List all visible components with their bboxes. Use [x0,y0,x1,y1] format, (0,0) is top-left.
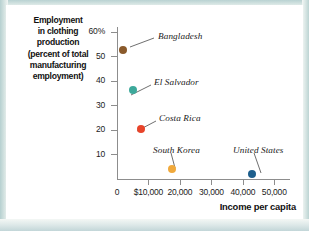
leader-line [254,153,261,173]
scatter-plot: Employmentin clothingproduction(percent … [6,5,303,219]
series-label: Bangladesh [158,31,202,41]
y-axis-title-line: production [12,37,104,48]
y-tick-mark [111,130,118,131]
screenshot-page: Employmentin clothingproduction(percent … [0,0,309,231]
y-tick-label: 40 [71,75,105,85]
x-tick-mark [243,179,244,185]
page-edge-bottom [0,219,309,231]
y-tick-label: 20 [71,124,105,134]
data-point[interactable] [168,165,176,173]
data-point[interactable] [129,86,137,94]
data-point[interactable] [119,46,127,54]
y-tick-label: 30 [71,100,105,110]
y-axis-title-line: Employment [12,15,104,26]
x-tick-label: 50,000 [244,187,304,197]
x-axis-line [117,179,290,180]
y-axis-title: Employmentin clothingproduction(percent … [12,15,104,82]
x-tick-mark [148,179,149,185]
y-tick-label: 50 [71,51,105,61]
series-label: United States [233,145,284,155]
x-axis-title: Income per capita [156,201,296,212]
series-label: South Korea [153,145,200,155]
data-point[interactable] [248,170,256,178]
chart-card: Employmentin clothingproduction(percent … [6,5,303,219]
data-point[interactable] [137,125,145,133]
y-tick-mark [111,154,118,155]
y-tick-mark [111,81,118,82]
x-tick-mark [211,179,212,185]
y-axis-title-line: manufacturing [12,60,104,71]
x-tick-mark [274,179,275,185]
series-label: Costa Rica [159,113,201,123]
series-label: El Salvador [154,77,199,87]
y-tick-mark [111,32,118,33]
y-axis-line [117,27,118,180]
x-tick-mark [180,179,181,185]
y-tick-mark [111,56,118,57]
leader-line [130,38,154,47]
y-tick-label: 60% [71,26,105,36]
y-tick-mark [111,105,118,106]
y-tick-label: 10 [71,149,105,159]
